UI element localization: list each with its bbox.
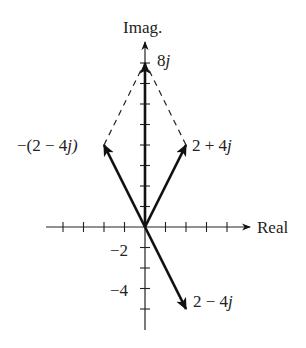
label-neg-2-minus-4j: −(2 − 4j) — [17, 136, 78, 155]
vector-neg-2-minus-4j — [104, 145, 145, 227]
vector-2-plus-4j — [145, 145, 186, 227]
imag-axis-label: Imag. — [123, 18, 162, 37]
label-2-plus-4j: 2 + 4j — [192, 136, 232, 155]
tick-label-neg4: −4 — [110, 281, 129, 300]
tick-label-neg2: −2 — [110, 241, 128, 260]
vector-2-minus-4j — [145, 227, 186, 309]
complex-plane-diagram: Imag. Real 8j 2 + 4j −(2 − 4j) 2 − 4j −2… — [0, 0, 306, 348]
real-axis-label: Real — [257, 218, 288, 237]
dashed-line-right — [148, 68, 186, 145]
label-2-minus-4j: 2 − 4j — [193, 292, 233, 311]
dashed-line-left — [104, 68, 142, 145]
cutoff-caption-fragment — [60, 0, 240, 3]
label-8j: 8j — [157, 51, 171, 70]
